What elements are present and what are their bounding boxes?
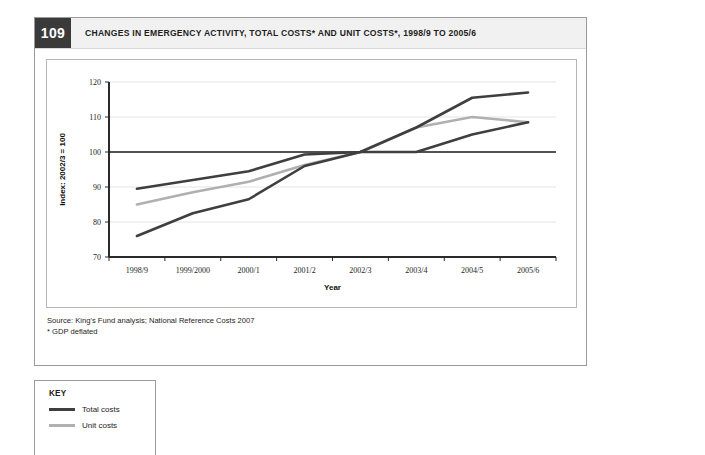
svg-text:70: 70 [93,253,101,262]
chart-x-tick-labels: 1998/91999/20002000/12001/22002/32003/42… [126,266,539,275]
chart-key-legend: KEY Total costs Unit costs [34,380,156,455]
figure-number-badge: 109 [35,18,71,48]
svg-text:Year: Year [324,283,341,292]
svg-text:80: 80 [93,218,101,227]
svg-text:120: 120 [89,78,101,87]
legend-item-total-costs: Total costs [49,405,155,414]
svg-text:110: 110 [89,113,101,122]
chart-y-axis-title: Index: 2002/3 = 100 [58,133,67,206]
chart-series-lines [137,93,528,237]
figure-container: 109 CHANGES IN EMERGENCY ACTIVITY, TOTAL… [34,17,587,366]
chart-y-tick-labels: 708090100110120 [89,78,101,262]
svg-text:1999/2000: 1999/2000 [176,266,210,275]
svg-text:2004/5: 2004/5 [461,266,483,275]
svg-text:2003/4: 2003/4 [405,266,427,275]
svg-text:2005/6: 2005/6 [517,266,539,275]
svg-text:2001/2: 2001/2 [293,266,315,275]
legend-item-unit-costs: Unit costs [49,421,155,430]
source-line: Source: King's Fund analysis; National R… [47,315,254,326]
svg-text:100: 100 [89,148,101,157]
legend-swatch-total-costs [49,408,75,411]
figure-header: 109 CHANGES IN EMERGENCY ACTIVITY, TOTAL… [35,18,586,49]
line-chart: 708090100110120 1998/91999/20002000/1200… [47,60,578,309]
svg-text:1998/9: 1998/9 [126,266,148,275]
footnote-line: * GDP deflated [47,326,254,337]
legend-label-total-costs: Total costs [82,405,120,414]
svg-text:2000/1: 2000/1 [238,266,260,275]
svg-text:90: 90 [93,183,101,192]
chart-axes [105,82,556,261]
chart-plot-frame: 708090100110120 1998/91999/20002000/1200… [46,59,577,308]
key-title: KEY [49,389,155,398]
figure-title: CHANGES IN EMERGENCY ACTIVITY, TOTAL COS… [71,18,586,48]
chart-x-axis-title: Year [324,283,341,292]
legend-label-unit-costs: Unit costs [82,421,117,430]
legend-swatch-unit-costs [49,424,75,427]
figure-source-note: Source: King's Fund analysis; National R… [47,315,254,337]
svg-text:2002/3: 2002/3 [349,266,371,275]
svg-text:Index: 2002/3 = 100: Index: 2002/3 = 100 [58,133,67,206]
